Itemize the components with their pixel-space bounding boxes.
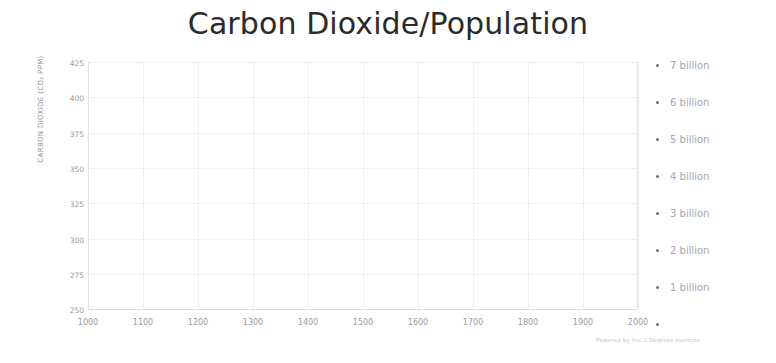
population-tick-label: 4 billion xyxy=(670,171,709,182)
population-tick-dot-icon xyxy=(656,212,659,215)
gridline-v-1200 xyxy=(198,62,199,310)
page-title: Carbon Dioxide/Population xyxy=(0,6,776,41)
population-tick-dot-icon xyxy=(656,249,659,252)
y-tick-325: 325 xyxy=(38,200,84,209)
x-tick-1700: 1700 xyxy=(453,318,493,327)
gridline-v-1100 xyxy=(143,62,144,310)
x-tick-1800: 1800 xyxy=(508,318,548,327)
y-tick-375: 375 xyxy=(38,130,84,139)
x-tick-1000: 1000 xyxy=(68,318,108,327)
y-tick-275: 275 xyxy=(38,271,84,280)
x-tick-1200: 1200 xyxy=(178,318,218,327)
chart-figure: Carbon Dioxide/Population CARBON DIOXIDE… xyxy=(0,0,776,363)
gridline-v-1600 xyxy=(418,62,419,310)
y-axis-tick-labels: 425 400 375 350 325 300 275 250 xyxy=(34,0,84,363)
x-tick-1300: 1300 xyxy=(233,318,273,327)
population-tick-6: 6 billion xyxy=(648,96,709,108)
population-tick-7: 7 billion xyxy=(648,59,709,71)
x-axis-tick-labels: 1000 1100 1200 1300 1400 1500 1600 1700 … xyxy=(88,318,648,334)
population-tick-dot-icon xyxy=(656,175,659,178)
x-tick-1500: 1500 xyxy=(343,318,383,327)
x-tick-1100: 1100 xyxy=(123,318,163,327)
plot-area xyxy=(88,62,638,310)
y-tick-250: 250 xyxy=(38,306,84,315)
population-tick-dot-icon xyxy=(656,286,659,289)
population-tick-0 xyxy=(648,318,670,330)
population-tick-4: 4 billion xyxy=(648,170,709,182)
population-tick-dot-icon xyxy=(656,138,659,141)
gridline-v-1800 xyxy=(528,62,529,310)
gridline-v-1300 xyxy=(253,62,254,310)
y-tick-400: 400 xyxy=(38,94,84,103)
population-tick-label: 1 billion xyxy=(670,282,709,293)
population-tick-label: 2 billion xyxy=(670,245,709,256)
population-tick-dot-icon xyxy=(656,101,659,104)
plot-axis-left xyxy=(88,62,89,310)
plot-axis-bottom xyxy=(88,309,638,310)
gridline-v-1400 xyxy=(308,62,309,310)
population-tick-label: 3 billion xyxy=(670,208,709,219)
y-tick-300: 300 xyxy=(38,236,84,245)
population-tick-dot-icon xyxy=(656,323,659,326)
x-tick-1400: 1400 xyxy=(288,318,328,327)
population-tick-2: 2 billion xyxy=(648,244,709,256)
population-axis-legend: 7 billion 6 billion 5 billion 4 billion … xyxy=(648,55,768,325)
y-tick-425: 425 xyxy=(38,59,84,68)
plot-axis-right xyxy=(637,62,638,310)
attribution-text: Powered by the 2 Degrees Institute xyxy=(0,337,700,343)
population-tick-label: 6 billion xyxy=(670,97,709,108)
gridline-v-2000 xyxy=(638,62,639,310)
y-tick-350: 350 xyxy=(38,165,84,174)
gridline-v-1700 xyxy=(473,62,474,310)
x-tick-1900: 1900 xyxy=(563,318,603,327)
gridline-v-1500 xyxy=(363,62,364,310)
population-tick-1: 1 billion xyxy=(648,281,709,293)
x-tick-1600: 1600 xyxy=(398,318,438,327)
population-tick-label: 5 billion xyxy=(670,134,709,145)
population-tick-dot-icon xyxy=(656,64,659,67)
population-tick-5: 5 billion xyxy=(648,133,709,145)
population-tick-3: 3 billion xyxy=(648,207,709,219)
gridline-v-1900 xyxy=(583,62,584,310)
population-tick-label: 7 billion xyxy=(670,60,709,71)
